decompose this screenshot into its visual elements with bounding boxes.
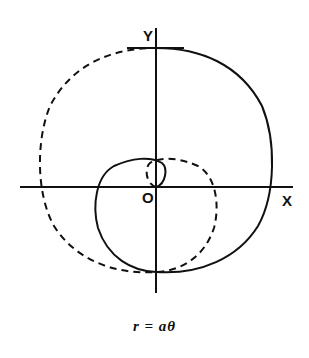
y-axis-label: Y	[143, 28, 153, 43]
origin-label: O	[142, 190, 154, 205]
x-axis-label: X	[282, 193, 292, 208]
spiral-diagram	[0, 0, 309, 358]
equation-caption: r = aθ	[0, 318, 309, 335]
